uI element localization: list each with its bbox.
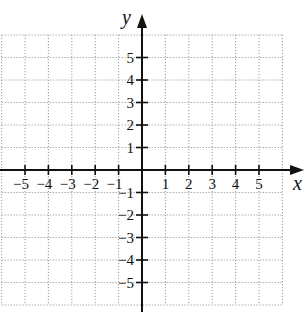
axes bbox=[0, 14, 304, 312]
y-tick-label: −5 bbox=[118, 275, 134, 291]
x-axis-label: x bbox=[292, 172, 302, 194]
x-tick-label: 1 bbox=[162, 176, 170, 192]
y-tick-label: 5 bbox=[127, 50, 135, 66]
x-tick-label: 2 bbox=[185, 176, 193, 192]
x-tick-label: −4 bbox=[36, 176, 52, 192]
y-tick-label: −2 bbox=[118, 207, 134, 223]
y-tick-label: −3 bbox=[118, 230, 134, 246]
y-tick-label: 3 bbox=[127, 95, 135, 111]
y-tick-label: −1 bbox=[118, 185, 134, 201]
x-tick-label: 3 bbox=[208, 176, 216, 192]
x-tick-labels: −5−4−3−2−112345 bbox=[13, 176, 263, 192]
y-axis-arrow-icon bbox=[137, 14, 147, 28]
x-tick-label: −5 bbox=[13, 176, 29, 192]
x-tick-label: 5 bbox=[255, 176, 263, 192]
y-axis-label: y bbox=[120, 6, 131, 29]
y-tick-label: 2 bbox=[127, 117, 135, 133]
x-tick-label: 4 bbox=[232, 176, 240, 192]
y-tick-label: 1 bbox=[127, 140, 135, 156]
coordinate-plane: −5−4−3−2−112345 −5−4−3−2−112345 x y bbox=[0, 0, 304, 315]
x-tick-label: −2 bbox=[83, 176, 99, 192]
y-tick-label: 4 bbox=[127, 72, 135, 88]
x-tick-label: −3 bbox=[60, 176, 76, 192]
y-tick-label: −4 bbox=[118, 252, 134, 268]
